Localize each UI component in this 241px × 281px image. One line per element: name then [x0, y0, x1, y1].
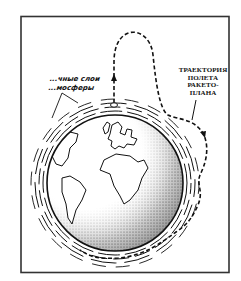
atmosphere-layers-label: ...чные слои ...мосферы [48, 75, 101, 93]
earth-trajectory-illustration [0, 0, 241, 281]
trajectory-label-line: ПЛАНА [176, 90, 230, 98]
atmosphere-label-line: ...чные слои [49, 75, 100, 84]
arrow-down-icon [200, 131, 206, 138]
trajectory-label: ТРАЕКТОРИЯ ПОЛЕТА РАКЕТО- ПЛАНА [176, 67, 230, 97]
trajectory-pointer [192, 100, 196, 120]
arrow-up-icon [111, 74, 117, 81]
atmosphere-label-line: ...мосферы [48, 84, 99, 93]
launch-point-icon [111, 103, 118, 107]
